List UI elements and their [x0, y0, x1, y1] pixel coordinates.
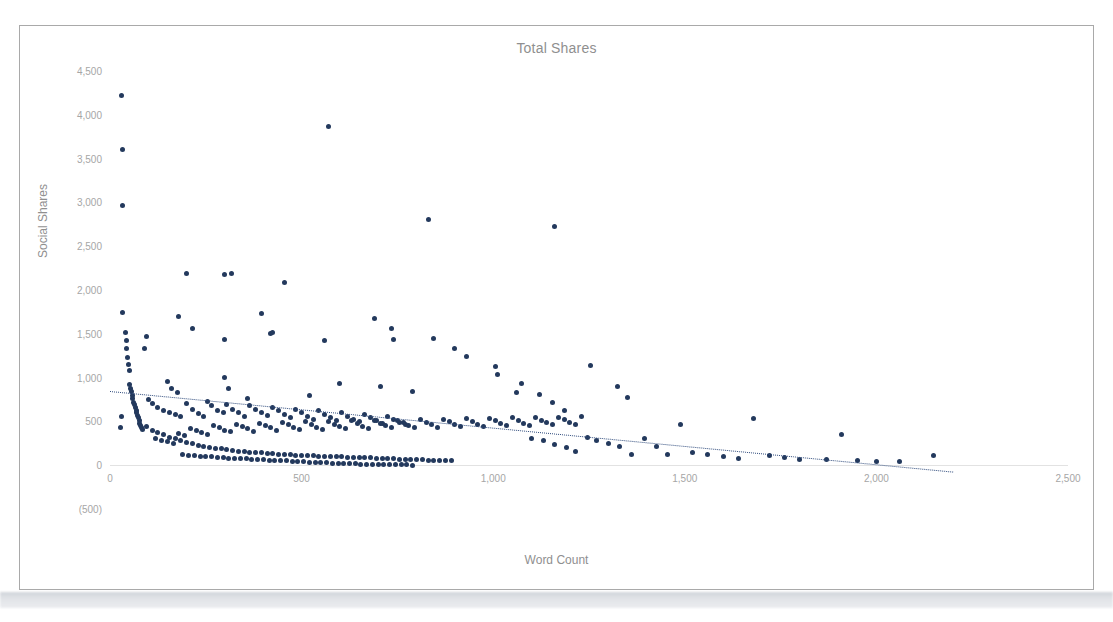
scatter-point	[426, 458, 431, 463]
scatter-point	[654, 444, 659, 449]
scatter-point	[213, 446, 218, 451]
scatter-point	[230, 448, 235, 453]
scatter-point	[372, 316, 377, 321]
scatter-point	[721, 454, 726, 459]
scatter-point	[222, 375, 227, 380]
scatter-point	[874, 459, 879, 464]
scatter-point	[196, 411, 201, 416]
scatter-point	[426, 217, 431, 222]
scatter-point	[124, 338, 129, 343]
scatter-point	[314, 425, 319, 430]
scatter-point	[219, 446, 224, 451]
scatter-point	[249, 457, 254, 462]
scatter-point	[190, 407, 195, 412]
scatter-point	[544, 420, 549, 425]
scatter-point	[124, 346, 129, 351]
scatter-point	[514, 390, 519, 395]
scatter-point	[537, 392, 542, 397]
scatter-point	[203, 454, 208, 459]
y-axis-tick-label: 0	[42, 460, 102, 471]
scatter-point	[276, 452, 281, 457]
scatter-point	[255, 457, 260, 462]
scatter-point	[397, 457, 402, 462]
scatter-point	[412, 425, 417, 430]
scatter-point	[541, 438, 546, 443]
scatter-point	[127, 368, 132, 373]
scatter-point	[288, 452, 293, 457]
scatter-point	[161, 408, 166, 413]
scatter-point	[188, 426, 193, 431]
scatter-point	[270, 451, 275, 456]
scatter-point	[305, 414, 310, 419]
x-axis-line	[110, 465, 1068, 466]
scatter-point	[322, 454, 327, 459]
scatter-point	[155, 405, 160, 410]
scatter-point	[120, 310, 125, 315]
scatter-point	[278, 458, 283, 463]
scatter-point	[217, 425, 222, 430]
y-axis-tick-label: 3,500	[42, 153, 102, 164]
scatter-point	[232, 456, 237, 461]
scatter-point	[236, 449, 241, 454]
scatter-point	[221, 410, 226, 415]
x-axis-tick-label: 0	[107, 473, 113, 484]
scatter-point	[229, 271, 234, 276]
scatter-point	[242, 449, 247, 454]
scatter-point	[272, 458, 277, 463]
scatter-point	[562, 408, 567, 413]
scatter-point	[165, 379, 170, 384]
scatter-point	[378, 421, 383, 426]
y-axis-tick-label: 4,500	[42, 66, 102, 77]
scatter-point	[280, 420, 285, 425]
scatter-point	[351, 455, 356, 460]
scatter-point	[126, 362, 131, 367]
scatter-point	[224, 447, 229, 452]
scatter-point	[230, 407, 235, 412]
scatter-point	[357, 455, 362, 460]
scatter-point	[259, 450, 264, 455]
scatter-point	[119, 414, 124, 419]
scatter-point	[399, 462, 404, 467]
scatter-point	[307, 393, 312, 398]
scatter-point	[504, 423, 509, 428]
scatter-point	[245, 396, 250, 401]
y-axis-tick-label: 1,500	[42, 328, 102, 339]
scatter-point	[288, 415, 293, 420]
y-axis-tick-label: 500	[42, 416, 102, 427]
scatter-point	[326, 419, 331, 424]
scatter-point	[552, 224, 557, 229]
scatter-point	[167, 410, 172, 415]
scatter-point	[339, 454, 344, 459]
scatter-point	[142, 346, 147, 351]
scatter-point	[552, 442, 557, 447]
scatter-point	[120, 147, 125, 152]
scatter-point	[209, 454, 214, 459]
scatter-point	[464, 416, 469, 421]
scatter-point	[245, 426, 250, 431]
scatter-point	[221, 455, 226, 460]
scatter-point	[625, 395, 630, 400]
scatter-point	[326, 124, 331, 129]
scatter-point	[198, 454, 203, 459]
scatter-point	[431, 336, 436, 341]
scatter-point	[380, 456, 385, 461]
scatter-point	[562, 417, 567, 422]
x-axis-title: Word Count	[20, 553, 1093, 567]
scatter-point	[211, 423, 216, 428]
scatter-point	[226, 386, 231, 391]
scatter-point	[362, 455, 367, 460]
scatter-point	[736, 456, 741, 461]
scatter-point	[165, 439, 170, 444]
scatter-point	[337, 424, 342, 429]
scatter-point	[184, 401, 189, 406]
x-axis-tick-label: 2,500	[1055, 473, 1080, 484]
scatter-point	[665, 452, 670, 457]
scatter-point	[615, 384, 620, 389]
scatter-point	[437, 458, 442, 463]
scatter-point	[550, 400, 555, 405]
scatter-point	[374, 456, 379, 461]
scatter-point	[343, 426, 348, 431]
scatter-point	[435, 425, 440, 430]
scatter-point	[263, 423, 268, 428]
scatter-point	[180, 452, 185, 457]
